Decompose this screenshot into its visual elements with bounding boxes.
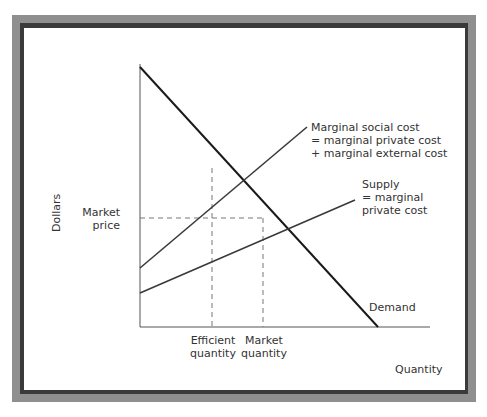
msc-label-line1: Marginal social cost (311, 121, 447, 134)
supply-label-line1: Supply (362, 178, 427, 191)
supply-label: Supply = marginal private cost (362, 178, 427, 217)
supply-line (140, 200, 355, 293)
efficient-quantity-line2: quantity (187, 347, 239, 360)
market-quantity-line2: quantity (238, 347, 290, 360)
msc-label-line3: + marginal external cost (311, 147, 447, 160)
market-price-label: Market price (70, 206, 120, 232)
x-axis-label: Quantity (395, 363, 443, 376)
market-quantity-line1: Market (238, 334, 290, 347)
demand-label: Demand (369, 301, 416, 314)
market-price-line2: price (70, 219, 120, 232)
supply-label-line3: private cost (362, 204, 427, 217)
demand-line (140, 67, 378, 327)
y-axis-label: Dollars (50, 194, 63, 232)
msc-label-line2: = marginal private cost (311, 134, 447, 147)
msc-label: Marginal social cost = marginal private … (311, 121, 447, 160)
supply-label-line2: = marginal (362, 191, 427, 204)
market-price-line1: Market (70, 206, 120, 219)
marginal-social-cost-line (140, 127, 307, 268)
efficient-quantity-line1: Efficient (187, 334, 239, 347)
market-quantity-label: Market quantity (238, 334, 290, 360)
efficient-quantity-label: Efficient quantity (187, 334, 239, 360)
